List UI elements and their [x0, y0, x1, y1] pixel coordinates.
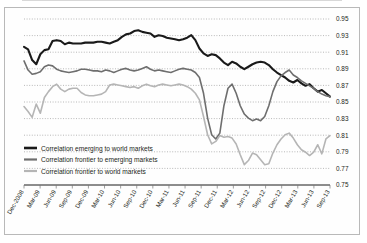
- x-axis-tick-label: Sep-13: [315, 188, 331, 209]
- x-axis-tick-label: Dec-10: [138, 188, 154, 209]
- y-axis-tick-label: 0.93: [336, 32, 349, 39]
- series-line: [24, 30, 330, 96]
- x-axis-tick-label: Mar-11: [154, 188, 170, 209]
- y-axis-tick-label: 0.91: [336, 49, 349, 56]
- correlation-line-chart: 0.950.930.910.890.870.850.830.810.790.77…: [0, 0, 367, 243]
- x-axis-tick-label: Sep-11: [186, 188, 202, 209]
- x-axis-tick-label: Sep-10: [122, 188, 138, 209]
- x-axis-tick-label: Sep-09: [57, 188, 73, 209]
- y-axis-tick-label: 0.81: [336, 132, 349, 139]
- x-axis-labels-group: Dec-2008Mar-09Jun-09Sep-09Dec-09Mar-10Ju…: [5, 188, 331, 215]
- x-axis-tick-label: Mar-13: [283, 188, 299, 209]
- x-axis-group: [24, 185, 330, 189]
- series-line: [24, 84, 330, 165]
- legend-label: Correlation frontier to emerging markets: [41, 156, 158, 164]
- y-axis-labels-group: 0.950.930.910.890.870.850.830.810.790.77…: [336, 15, 349, 188]
- y-axis-tick-label: 0.89: [336, 65, 349, 72]
- x-axis-tick-label: Dec-2008: [5, 188, 25, 215]
- series-line: [24, 61, 330, 139]
- x-axis-tick-label: Jun-11: [171, 188, 187, 208]
- y-axis-tick-label: 0.87: [336, 82, 349, 89]
- y-axis-tick-label: 0.77: [336, 165, 349, 172]
- x-axis-tick-label: Mar-12: [218, 188, 234, 209]
- x-axis-tick-label: Jun-12: [235, 188, 251, 208]
- legend-label: Correlation frontier to world markets: [41, 168, 147, 175]
- x-axis-tick-label: Mar-09: [25, 188, 41, 209]
- chart-legend: Correlation emerging to world marketsCor…: [24, 145, 158, 175]
- y-axis-tick-label: 0.85: [336, 98, 349, 105]
- x-axis-tick-label: Jun-13: [299, 188, 315, 208]
- x-axis-tick-label: Dec-09: [73, 188, 89, 209]
- x-axis-tick-label: Jun-09: [42, 188, 58, 208]
- x-axis-tick-label: Jun-10: [106, 188, 122, 208]
- x-axis-tick-label: Mar-10: [90, 188, 106, 209]
- x-axis-tick-label: Sep-12: [250, 188, 266, 209]
- chart-svg: 0.950.930.910.890.870.850.830.810.790.77…: [0, 0, 367, 243]
- y-axis-tick-label: 0.83: [336, 115, 349, 122]
- y-axis-tick-label: 0.95: [336, 15, 349, 22]
- x-axis-tick-label: Dec-12: [267, 188, 283, 209]
- legend-label: Correlation emerging to world markets: [41, 145, 153, 153]
- y-axis-tick-label: 0.75: [336, 181, 349, 188]
- x-axis-tick-label: Dec-11: [202, 188, 218, 209]
- y-axis-tick-label: 0.79: [336, 148, 349, 155]
